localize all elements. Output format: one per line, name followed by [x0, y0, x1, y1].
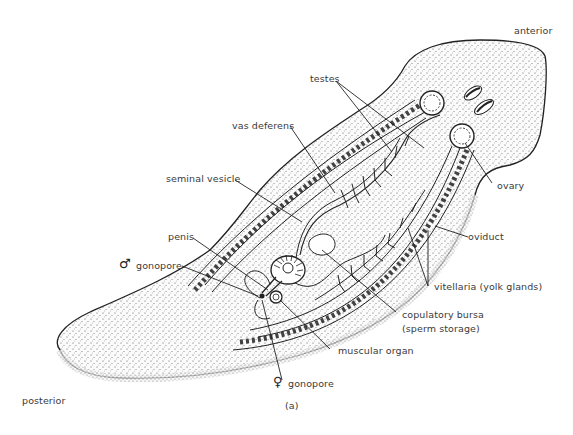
label-muscular-organ: muscular organ: [338, 345, 414, 356]
label-copulatory-bursa-note: (sperm storage): [402, 323, 480, 334]
copulatory-bursa: [309, 234, 335, 255]
label-male-gonopore: gonopore: [136, 260, 182, 271]
label-penis: penis: [168, 231, 194, 242]
gonopore-pore: [260, 294, 265, 299]
label-posterior: posterior: [22, 395, 66, 406]
label-female-gonopore: gonopore: [288, 378, 334, 389]
label-vitellaria: vitellaria (yolk glands): [434, 281, 542, 292]
label-copulatory-bursa: copulatory bursa: [402, 309, 484, 320]
female-symbol-icon: ♀: [273, 374, 283, 389]
label-ovary: ovary: [497, 180, 524, 191]
male-symbol-icon: ♂: [119, 256, 131, 271]
panel-label: (a): [285, 400, 299, 411]
label-testes: testes: [310, 73, 340, 84]
label-vas-deferens: vas deferens: [232, 120, 294, 131]
label-oviduct: oviduct: [468, 231, 504, 242]
label-seminal-vesicle: seminal vesicle: [166, 173, 240, 184]
muscular-organ: [270, 291, 282, 303]
label-anterior: anterior: [514, 25, 552, 36]
flatworm-diagram: [0, 0, 573, 435]
